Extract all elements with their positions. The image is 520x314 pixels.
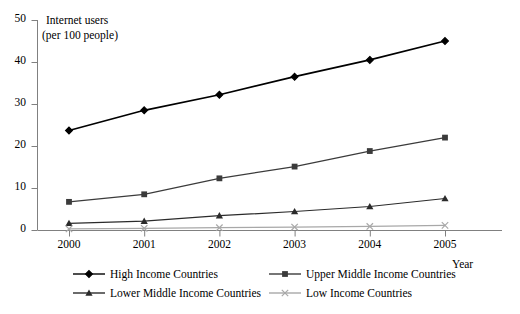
x-axis-tick-label: 2004 — [348, 238, 392, 250]
legend-item[interactable]: Low Income Countries — [268, 287, 412, 299]
x-axis-tick-label: 2005 — [423, 238, 467, 250]
chart-legend: High Income CountriesUpper Middle Income… — [72, 264, 502, 302]
chart-title-line1: Internet users — [46, 13, 108, 28]
legend-marker-triangle-icon — [72, 287, 106, 299]
legend-item-label: Lower Middle Income Countries — [110, 287, 261, 299]
series-data-point — [442, 38, 449, 45]
x-axis-tick-label: 2001 — [122, 238, 166, 250]
x-axis-tick-label: 2003 — [273, 238, 317, 250]
series-data-point — [66, 127, 73, 134]
legend-item-label: Upper Middle Income Countries — [306, 268, 456, 280]
y-axis-tick-label: 20 — [2, 138, 26, 150]
x-axis-tick-label: 2000 — [47, 238, 91, 250]
series-line — [69, 199, 445, 224]
y-axis-ticks — [32, 21, 38, 231]
series-data-point — [366, 57, 373, 64]
y-axis-tick-label: 10 — [2, 180, 26, 192]
chart-series — [65, 195, 448, 226]
x-axis-ticks — [70, 231, 446, 237]
legend-marker-diamond-icon — [72, 268, 106, 280]
legend-item[interactable]: High Income Countries — [72, 268, 268, 280]
series-data-point — [66, 199, 72, 205]
legend-item-label: High Income Countries — [110, 268, 218, 280]
series-data-point — [441, 195, 448, 201]
legend-marker-square-icon — [268, 268, 302, 280]
legend-row: High Income CountriesUpper Middle Income… — [72, 264, 502, 283]
legend-marker-cross-icon — [268, 287, 302, 299]
series-data-point — [216, 91, 223, 98]
y-axis-tick-label: 40 — [2, 54, 26, 66]
series-data-point — [141, 107, 148, 114]
series-line — [69, 138, 445, 202]
series-data-point — [217, 175, 223, 181]
chart-series — [66, 135, 448, 205]
series-data-point — [291, 73, 298, 80]
series-data-point — [367, 148, 373, 154]
y-axis-tick-label: 50 — [2, 12, 26, 24]
chart-series-group — [65, 38, 448, 233]
x-axis-tick-label: 2002 — [197, 238, 241, 250]
y-axis-tick-label: 0 — [2, 222, 26, 234]
series-data-point — [292, 164, 298, 170]
legend-item-label: Low Income Countries — [306, 287, 412, 299]
chart-figure: Internet users (per 100 people) Year 010… — [0, 0, 520, 314]
chart-title-line2: (per 100 people) — [42, 28, 118, 43]
chart-series — [66, 38, 449, 134]
y-axis-tick-label: 30 — [2, 96, 26, 108]
legend-row: Lower Middle Income CountriesLow Income … — [72, 283, 502, 302]
chart-axes — [32, 20, 503, 237]
series-line — [69, 225, 445, 229]
series-line — [69, 41, 445, 130]
legend-item[interactable]: Upper Middle Income Countries — [268, 268, 456, 280]
series-data-point — [442, 135, 448, 141]
legend-item[interactable]: Lower Middle Income Countries — [72, 287, 268, 299]
series-data-point — [141, 191, 147, 197]
